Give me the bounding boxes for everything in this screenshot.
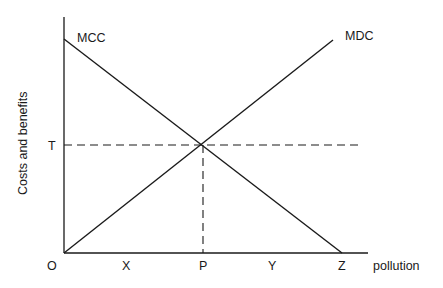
- origin-label: O: [47, 259, 57, 273]
- y-tick-label: Y: [268, 259, 277, 273]
- z-tick-label: Z: [338, 259, 346, 273]
- x-tick-label: X: [122, 259, 131, 273]
- t-label: T: [48, 139, 56, 153]
- p-tick-label: P: [199, 259, 207, 273]
- pollution-cost-diagram: MCC MDC T O X P Y Z pollution Costs and …: [0, 0, 443, 288]
- y-axis-title: Costs and benefits: [16, 91, 30, 195]
- mdc-label: MDC: [345, 29, 373, 43]
- mcc-label: MCC: [77, 31, 105, 45]
- x-axis-title: pollution: [373, 259, 420, 273]
- mdc-curve: [64, 40, 333, 253]
